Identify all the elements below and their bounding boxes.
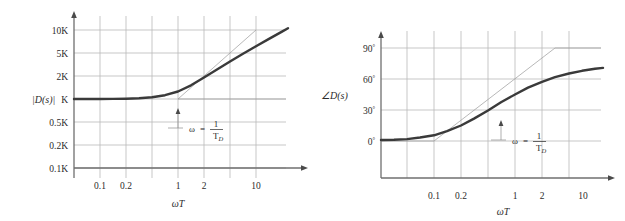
phase-xtick-4: 10 — [578, 191, 588, 201]
magnitude-ytick-1: 5K — [56, 49, 68, 59]
magnitude-ytick-2: 2K — [56, 72, 68, 82]
phase-x-tick-labels: 0.1 0.2 1 2 10 — [428, 191, 588, 201]
phase-horizontal-gridlines — [381, 48, 601, 141]
svg-text:60°: 60° — [363, 74, 376, 85]
svg-text:10K: 10K — [52, 26, 69, 36]
phase-annot-denominator-sub: D — [541, 147, 547, 154]
svg-text:0°: 0° — [368, 136, 376, 147]
magnitude-plot-svg: 10K 5K 2K K 0.5K 0.2K 0.1K — [0, 0, 313, 221]
bode-plot-figure: 10K 5K 2K K 0.5K 0.2K 0.1K — [0, 0, 625, 221]
svg-text:5K: 5K — [56, 49, 68, 59]
magnitude-x-axis-arrowhead — [301, 165, 308, 171]
svg-text:90°: 90° — [363, 43, 376, 54]
phase-xtick-3: 2 — [540, 191, 545, 201]
magnitude-high-freq-asymptote — [178, 30, 256, 99]
phase-vertical-gridlines — [407, 31, 569, 178]
phase-xtick-1: 0.2 — [455, 191, 467, 201]
svg-text:2K: 2K — [56, 72, 68, 82]
svg-text:0.1K: 0.1K — [49, 164, 68, 174]
svg-text:K: K — [61, 95, 68, 105]
phase-y-axis-arrowhead — [378, 31, 384, 38]
magnitude-x-tick-labels: 0.1 0.2 1 2 10 — [94, 181, 261, 191]
magnitude-ytick-4: 0.5K — [49, 118, 68, 128]
magnitude-xtick-3: 2 — [202, 181, 207, 191]
phase-xtick-2: 1 — [513, 191, 518, 201]
magnitude-annotation-leader — [168, 108, 183, 128]
magnitude-xtick-2: 1 — [176, 181, 181, 191]
magnitude-xtick-1: 0.2 — [120, 181, 132, 191]
phase-y-tick-labels: 90° 60° 30° 0° — [363, 43, 376, 147]
phase-ytick-0-degree: ° — [372, 43, 375, 50]
phase-annot-numerator: 1 — [537, 131, 542, 141]
phase-y-axis-title: ∠D(s) — [321, 90, 348, 102]
magnitude-plot-panel: 10K 5K 2K K 0.5K 0.2K 0.1K — [0, 0, 313, 221]
phase-ytick-2: 30 — [363, 106, 373, 116]
phase-mid-freq-asymptote — [434, 48, 555, 141]
magnitude-x-axis-title: ωT — [172, 198, 186, 209]
magnitude-breakpoint-annotation: ω = 1 T D — [189, 119, 224, 142]
svg-text:30°: 30° — [363, 105, 376, 116]
magnitude-annot-denominator-sub: D — [218, 135, 224, 142]
magnitude-xtick-0: 0.1 — [94, 181, 106, 191]
phase-ytick-1: 60 — [363, 75, 373, 85]
phase-ytick-2-degree: ° — [372, 105, 375, 112]
magnitude-ytick-5: 0.2K — [49, 141, 68, 151]
magnitude-annot-omega: ω — [189, 124, 195, 134]
svg-text:0.5K: 0.5K — [49, 118, 68, 128]
phase-annotation-leader — [491, 120, 506, 140]
magnitude-y-axis-title: |D(s)| — [32, 94, 55, 106]
phase-ytick-0: 90 — [363, 44, 373, 54]
phase-annot-omega: ω — [512, 136, 518, 146]
phase-xtick-0: 0.1 — [428, 191, 440, 201]
phase-plot-svg: 90° 60° 30° 0° ∠D(s) 0.1 0.2 1 2 — [313, 0, 625, 221]
magnitude-ytick-3: K — [61, 95, 68, 105]
magnitude-annot-equals: = — [200, 124, 205, 134]
phase-annot-equals: = — [523, 136, 528, 146]
phase-plot-panel: 90° 60° 30° 0° ∠D(s) 0.1 0.2 1 2 — [313, 0, 625, 221]
phase-breakpoint-annotation: ω = 1 T D — [512, 131, 547, 154]
magnitude-xtick-4: 10 — [251, 181, 261, 191]
magnitude-y-axis-arrowhead — [71, 11, 77, 18]
magnitude-ytick-0: 10K — [52, 26, 69, 36]
magnitude-vertical-gridlines — [100, 16, 256, 178]
magnitude-ytick-6: 0.1K — [49, 164, 68, 174]
phase-ytick-1-degree: ° — [372, 74, 375, 81]
svg-text:0.2K: 0.2K — [49, 141, 68, 151]
phase-x-axis-arrowhead — [608, 175, 615, 181]
magnitude-annot-numerator: 1 — [214, 119, 219, 129]
phase-ytick-3-degree: ° — [372, 136, 375, 143]
phase-x-axis-title: ωT — [497, 206, 511, 217]
